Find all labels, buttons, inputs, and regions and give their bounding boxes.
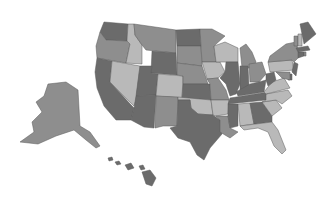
state-sd xyxy=(177,46,202,66)
state-ct xyxy=(298,52,304,58)
state-nd xyxy=(176,29,201,46)
state-shapes xyxy=(20,22,316,186)
state-ri xyxy=(304,52,306,56)
state-hi-2 xyxy=(115,161,121,165)
state-ms xyxy=(228,104,238,128)
state-hi-5 xyxy=(142,170,156,186)
state-fl xyxy=(240,122,286,154)
state-hi-1 xyxy=(108,157,113,161)
state-ma xyxy=(296,46,310,52)
state-ar xyxy=(211,100,229,116)
state-hi-4 xyxy=(139,165,145,170)
state-nm xyxy=(155,96,178,128)
state-wi xyxy=(214,42,238,62)
state-ak xyxy=(20,82,100,148)
state-co xyxy=(156,74,183,98)
state-wy xyxy=(151,51,177,75)
state-vt xyxy=(294,36,298,46)
state-oh xyxy=(249,62,266,82)
state-hi-3 xyxy=(125,163,134,170)
state-me xyxy=(300,22,316,44)
state-nh xyxy=(298,34,302,46)
us-choropleth-map xyxy=(0,0,336,197)
